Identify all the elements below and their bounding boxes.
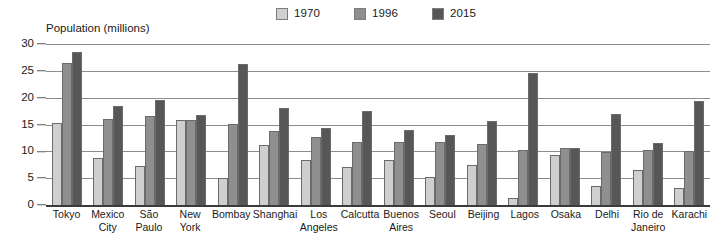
bar-2015[interactable] [155,100,165,205]
y-axis-title: Population (millions) [46,22,150,34]
y-axis-tick-mark [37,44,46,45]
legend-entry-2015: 2015 [432,8,476,20]
bar-1970[interactable] [591,186,601,205]
bar-1996[interactable] [186,120,196,205]
bar-group[interactable] [420,44,462,205]
bar-group[interactable] [503,44,545,205]
bar-1970[interactable] [52,123,62,205]
bar-2015[interactable] [72,52,82,205]
y-axis-tick: 10 [0,146,46,158]
legend-swatch-1996 [354,8,366,20]
x-axis-label: Karachi [669,208,710,233]
bar-2015[interactable] [694,101,704,205]
y-axis-tick: 20 [0,92,46,104]
population-bar-chart: 1970 1996 2015 Population (millions) 302… [0,0,725,248]
bar-1996[interactable] [518,150,528,205]
bar-group[interactable] [212,44,254,205]
bar-2015[interactable] [404,130,414,205]
bar-1996[interactable] [145,116,155,205]
bar-1996[interactable] [643,150,653,205]
bar-1996[interactable] [435,142,445,205]
y-axis-tick-mark [37,151,46,152]
bar-2015[interactable] [196,115,206,205]
bar-2015[interactable] [487,121,497,205]
bar-group[interactable] [586,44,628,205]
x-axis-label: Delhi [586,208,627,233]
y-axis-ticks: 302520151050 [0,44,46,205]
y-axis-tick-mark [37,97,46,98]
y-axis-tick-label: 25 [21,65,34,77]
bar-1970[interactable] [218,178,228,205]
x-axis-label: Osaka [545,208,586,233]
bar-1996[interactable] [352,142,362,205]
bar-1996[interactable] [269,131,279,205]
legend-entry-1970: 1970 [276,8,320,20]
x-axis-label: Los Angeles [298,208,339,233]
y-axis-tick-label: 30 [21,38,34,50]
bar-group[interactable] [378,44,420,205]
bar-2015[interactable] [321,128,331,205]
bar-2015[interactable] [238,64,248,205]
bar-2015[interactable] [362,111,372,205]
bar-1970[interactable] [176,120,186,205]
x-axis-label: Mexico City [87,208,128,233]
bar-2015[interactable] [279,108,289,205]
bar-group[interactable] [129,44,171,205]
y-axis-tick-mark [37,70,46,71]
bar-1970[interactable] [342,167,352,205]
bar-1970[interactable] [550,155,560,205]
bar-group[interactable] [627,44,669,205]
bar-1996[interactable] [311,137,321,205]
bar-2015[interactable] [570,148,580,205]
y-axis-tick-mark [37,124,46,125]
bar-1996[interactable] [394,142,404,205]
x-axis-label: Calcutta [339,208,380,233]
legend-label-1996: 1996 [372,8,398,20]
bar-1996[interactable] [103,119,113,205]
x-axis-label: Buenos Aires [381,208,422,233]
bar-group[interactable] [461,44,503,205]
y-axis-tick-mark [37,178,46,179]
bar-2015[interactable] [653,143,663,205]
y-axis-tick: 0 [0,199,46,211]
bar-group[interactable] [337,44,379,205]
bar-2015[interactable] [445,135,455,205]
bar-group[interactable] [295,44,337,205]
bar-group[interactable] [544,44,586,205]
bar-2015[interactable] [113,106,123,205]
bar-1970[interactable] [467,165,477,205]
bar-group[interactable] [88,44,130,205]
legend-entry-1996: 1996 [354,8,398,20]
y-axis-tick: 15 [0,119,46,131]
bar-1970[interactable] [384,160,394,205]
bar-1970[interactable] [633,170,643,205]
bar-1970[interactable] [135,166,145,205]
bar-1970[interactable] [93,158,103,205]
y-axis-tick-label: 20 [21,92,34,104]
y-axis-tick-mark [37,205,46,206]
bar-1970[interactable] [301,160,311,205]
bar-1970[interactable] [425,177,435,205]
legend-swatch-1970 [276,8,288,20]
x-axis-label: Shanghai [252,208,298,233]
bar-group[interactable] [669,44,711,205]
bar-group[interactable] [254,44,296,205]
bar-1970[interactable] [508,198,518,206]
bar-2015[interactable] [611,114,621,205]
y-axis-tick: 5 [0,172,46,184]
y-axis-tick-label: 15 [21,119,34,131]
bar-2015[interactable] [528,73,538,205]
bar-group[interactable] [46,44,88,205]
bar-1970[interactable] [674,188,684,205]
bar-1996[interactable] [560,148,570,205]
bar-1996[interactable] [62,63,72,205]
bar-1996[interactable] [601,152,611,205]
bar-1996[interactable] [477,144,487,205]
y-axis-tick: 25 [0,65,46,77]
x-axis-label: São Paulo [128,208,169,233]
bar-1970[interactable] [259,145,269,205]
bar-1996[interactable] [228,124,238,205]
bar-group[interactable] [171,44,213,205]
bar-1996[interactable] [684,151,694,205]
y-axis-tick-label: 0 [28,199,34,211]
